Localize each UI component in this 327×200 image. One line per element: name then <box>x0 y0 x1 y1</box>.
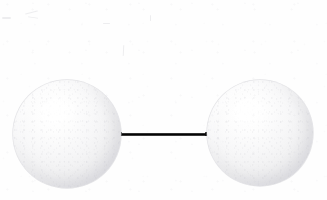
scan-artifact <box>103 23 110 24</box>
bond-bar <box>118 133 209 136</box>
scan-artifact <box>123 45 125 56</box>
atom-sphere-left <box>13 80 121 188</box>
scan-artifact <box>25 10 38 14</box>
scan-artifact <box>2 17 11 19</box>
scan-artifact <box>150 15 151 21</box>
atom-texture-right <box>207 80 313 186</box>
atom-sphere-right <box>207 80 313 186</box>
molecular-model-figure <box>0 0 327 200</box>
scan-artifact <box>28 16 38 19</box>
atom-texture-left <box>13 80 121 188</box>
